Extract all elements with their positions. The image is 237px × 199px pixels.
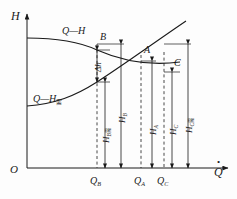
tick-qa-label: QA xyxy=(134,176,145,187)
y-axis-label: H xyxy=(11,10,20,22)
axis-group xyxy=(27,14,228,168)
origin-label: O xyxy=(10,164,18,175)
tick-qc-label: QC xyxy=(157,176,168,187)
x-axis-label: Q• xyxy=(214,166,223,178)
point-a-label: A xyxy=(144,45,150,55)
dim-delta-h-label: Δh xyxy=(94,62,103,72)
dim-hc-label: HC xyxy=(169,125,179,135)
system-curve-label: Q—H需 xyxy=(33,94,62,105)
figure-canvas: H Q• O Q—H Q—H需 BAC QBQAQC ΔhHB需HBHAHCHC… xyxy=(0,0,237,199)
point-c-label: C xyxy=(174,58,181,68)
tick-qb-label: QB xyxy=(90,176,101,187)
dim-hb-required-label: HB需 xyxy=(102,128,112,143)
dim-ha-label: HA xyxy=(149,125,159,135)
point-b-label: B xyxy=(100,32,106,42)
dim-hc-required-label: HC需 xyxy=(185,118,195,133)
dashed-vertical-group xyxy=(97,44,164,168)
pump-curve-label: Q—H xyxy=(62,26,85,36)
dim-hb-label: HB xyxy=(118,113,128,123)
